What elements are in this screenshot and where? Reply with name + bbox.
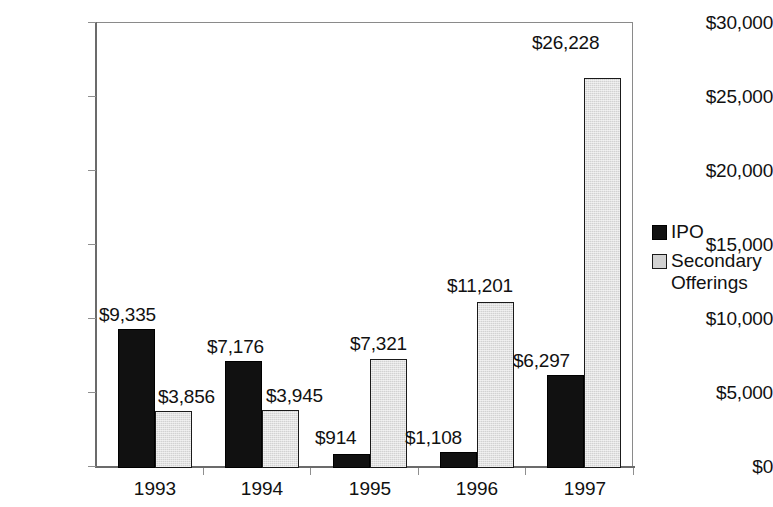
y-tick-label-10000: $10,000	[687, 309, 773, 328]
y-tick-label-25000: $25,000	[687, 87, 773, 106]
bar-1994-ipo[interactable]	[225, 361, 262, 468]
x-tick-label-1993: 1993	[110, 478, 200, 500]
bar-chart: $30,000 $25,000 $20,000 $15,000 $10,000 …	[0, 0, 773, 507]
y-tick-mark-5000	[88, 392, 96, 393]
bar-label-1996-secondary: $11,201	[447, 276, 513, 295]
y-tick-mark-15000	[88, 244, 96, 245]
y-tick-label-5000: $5,000	[687, 383, 773, 402]
legend-item-ipo[interactable]: IPO	[652, 221, 773, 243]
y-tick-mark-20000	[88, 170, 96, 171]
x-tick-label-1997: 1997	[540, 478, 630, 500]
bar-1993-ipo[interactable]	[118, 329, 155, 468]
bar-label-1997-ipo: $6,297	[513, 351, 570, 370]
bar-label-1994-secondary: $3,945	[266, 386, 323, 405]
bar-1994-secondary[interactable]	[262, 410, 299, 468]
bar-label-1997-secondary: $26,228	[532, 33, 599, 52]
legend-label-secondary-line1: Secondary	[671, 250, 762, 271]
bar-label-1994-ipo: $7,176	[207, 337, 264, 356]
x-tick-mark-1994	[310, 468, 311, 475]
y-tick-label-30000: $30,000	[687, 13, 773, 32]
bar-1995-ipo[interactable]	[333, 454, 370, 468]
bar-1995-secondary[interactable]	[370, 359, 407, 468]
x-tick-label-1996: 1996	[432, 478, 522, 500]
bar-1997-ipo[interactable]	[547, 375, 584, 468]
bar-1996-secondary[interactable]	[477, 302, 514, 468]
bar-label-1996-ipo: $1,108	[405, 428, 462, 447]
legend-swatch-secondary-icon	[652, 254, 667, 269]
y-axis-line	[95, 22, 97, 468]
x-tick-mark-1996	[525, 468, 526, 475]
y-tick-mark-10000	[88, 318, 96, 319]
x-tick-mark-1995	[418, 468, 419, 475]
legend-label-secondary-line2: Offerings	[671, 272, 748, 293]
y-tick-mark-0	[88, 466, 96, 467]
legend-label-secondary: Secondary Offerings	[671, 250, 762, 294]
bar-label-1995-ipo: $914	[315, 428, 356, 447]
legend: IPO Secondary Offerings	[652, 221, 773, 301]
x-tick-label-1994: 1994	[217, 478, 307, 500]
y-tick-label-0: $0	[687, 457, 773, 476]
legend-label-ipo: IPO	[671, 221, 704, 243]
y-tick-mark-25000	[88, 96, 96, 97]
legend-swatch-ipo-icon	[652, 225, 667, 240]
bar-label-1995-secondary: $7,321	[350, 334, 407, 353]
bar-1993-secondary[interactable]	[155, 411, 192, 468]
bar-label-1993-secondary: $3,856	[158, 387, 215, 406]
legend-item-secondary[interactable]: Secondary Offerings	[652, 250, 773, 294]
y-tick-mark-30000	[88, 22, 96, 23]
bar-label-1993-ipo: $9,335	[99, 305, 156, 324]
x-tick-label-1995: 1995	[325, 478, 415, 500]
x-tick-mark-1993	[203, 468, 204, 475]
bar-1996-ipo[interactable]	[440, 452, 477, 468]
x-tick-mark-1997	[633, 468, 634, 475]
y-tick-label-20000: $20,000	[687, 161, 773, 180]
bar-1997-secondary[interactable]	[584, 78, 621, 468]
